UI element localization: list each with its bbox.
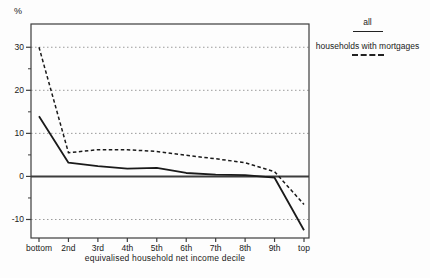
y-tick-label--10: -10 xyxy=(12,214,25,224)
legend-dashed-line-sample xyxy=(352,54,384,56)
y-tick-label-10: 10 xyxy=(15,128,25,138)
plot-frame xyxy=(31,24,309,238)
x-tick-label-2nd: 2nd xyxy=(61,243,75,253)
x-tick-label-bottom: bottom xyxy=(26,243,52,253)
x-tick-label-8th: 8th xyxy=(239,243,251,253)
y-tick-label-20: 20 xyxy=(15,85,25,95)
x-tick-label-3rd: 3rd xyxy=(92,243,105,253)
x-tick-label-7th: 7th xyxy=(210,243,222,253)
y-tick-label-0: 0 xyxy=(19,171,24,181)
legend: all households with mortgages xyxy=(310,17,425,56)
x-tick-label-6th: 6th xyxy=(180,243,192,253)
y-axis-unit-label: % xyxy=(14,6,22,16)
legend-entry-all: all xyxy=(310,17,425,32)
x-tick-label-top: top xyxy=(298,243,310,253)
legend-label-all: all xyxy=(310,17,425,27)
legend-label-households-with-mortgages: households with mortgages xyxy=(310,41,425,51)
x-tick-label-4th: 4th xyxy=(121,243,133,253)
figure: -100102030bottom2nd3rd4th5th6th7th8th9th… xyxy=(0,0,430,278)
legend-entry-households-with-mortgages: households with mortgages xyxy=(310,41,425,56)
legend-solid-line-sample xyxy=(353,31,383,32)
series-line-households-with-mortgages xyxy=(39,47,304,204)
x-axis-title: equivalised household net income decile xyxy=(0,253,330,263)
x-tick-label-9th: 9th xyxy=(269,243,281,253)
y-tick-label-30: 30 xyxy=(15,42,25,52)
x-tick-label-5th: 5th xyxy=(151,243,163,253)
